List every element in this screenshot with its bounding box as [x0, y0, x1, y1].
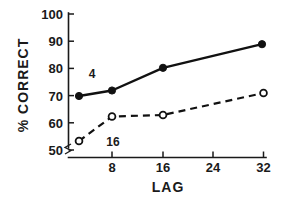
series-4-point-lag8 — [108, 87, 115, 94]
series-16-point-lag32 — [260, 90, 267, 97]
y-tick-label-70: 70 — [49, 89, 63, 104]
series-4-point-lag4 — [75, 92, 82, 99]
y-tick-label-80: 80 — [49, 61, 63, 76]
y-tick-label-100: 100 — [41, 7, 63, 22]
series-16-point-lag8 — [109, 113, 116, 120]
series-16-point-lag16 — [160, 112, 167, 119]
x-tick-label-16: 16 — [156, 160, 170, 175]
y-tick-label-50: 50 — [49, 143, 63, 158]
x-axis-title: LAG — [152, 179, 185, 195]
y-axis-title: % CORRECT — [15, 38, 31, 133]
series-16-line — [79, 93, 264, 141]
line-chart: 100 90 80 70 60 50 8 16 24 32 LAG % CORR… — [0, 0, 284, 202]
y-axis-break-icon — [65, 144, 71, 154]
y-tick-label-60: 60 — [49, 116, 63, 131]
series-4-point-lag16 — [159, 64, 166, 71]
series-4-line — [79, 44, 262, 96]
x-tick-label-8: 8 — [108, 160, 115, 175]
x-tick-label-32: 32 — [256, 160, 270, 175]
x-tick-label-24: 24 — [206, 160, 221, 175]
series-16-point-lag4 — [76, 138, 83, 145]
chart-figure: 100 90 80 70 60 50 8 16 24 32 LAG % CORR… — [0, 0, 284, 202]
y-tick-label-90: 90 — [49, 34, 63, 49]
series-label-4: 4 — [89, 67, 96, 81]
series-label-16: 16 — [106, 135, 120, 149]
series-4-point-lag32 — [258, 41, 265, 48]
